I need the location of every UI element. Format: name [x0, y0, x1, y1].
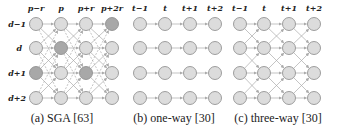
edge: [269, 78, 284, 93]
col-label: t+1: [281, 3, 297, 13]
node: [55, 92, 68, 105]
edge: [294, 29, 309, 43]
edge: [245, 78, 259, 93]
node: [134, 42, 147, 55]
edge: [41, 78, 56, 93]
node: [234, 18, 247, 31]
edge: [66, 78, 81, 93]
node: [159, 67, 172, 80]
node: [106, 92, 119, 105]
node: [234, 42, 247, 55]
col-label: t−1: [132, 3, 148, 13]
edge: [294, 78, 309, 93]
node: [106, 67, 119, 80]
node: [80, 18, 93, 31]
row-label: d+2: [8, 93, 26, 103]
edge: [66, 29, 81, 43]
col-label: t: [262, 3, 266, 13]
node: [30, 42, 43, 55]
highlighted-node: [80, 67, 93, 80]
edge: [91, 29, 107, 44]
node: [159, 42, 172, 55]
node: [258, 42, 271, 55]
col-label: p−r: [28, 3, 45, 13]
edge: [245, 29, 259, 43]
edge: [66, 29, 81, 43]
col-label: t−1: [232, 3, 248, 13]
edge: [245, 78, 259, 93]
highlighted-node: [55, 42, 68, 55]
col-label: p: [58, 3, 64, 13]
edge: [294, 53, 309, 68]
edge: [91, 28, 107, 43]
caption-b: (b) one-way [30]: [133, 111, 214, 125]
node: [308, 92, 321, 105]
node: [308, 67, 321, 80]
edge: [41, 29, 56, 43]
node: [234, 67, 247, 80]
edge: [269, 78, 284, 93]
node: [308, 18, 321, 31]
node: [80, 92, 93, 105]
node: [30, 18, 43, 31]
edge: [269, 53, 284, 68]
node: [283, 18, 296, 31]
node: [134, 18, 147, 31]
node: [184, 67, 197, 80]
edge: [66, 53, 81, 68]
node: [258, 18, 271, 31]
edge: [66, 78, 81, 93]
highlighted-node: [30, 67, 43, 80]
edge: [41, 29, 56, 43]
node: [234, 92, 247, 105]
edge: [269, 29, 284, 43]
node: [209, 92, 222, 105]
node: [258, 92, 271, 105]
node: [134, 92, 147, 105]
node: [184, 18, 197, 31]
edge: [245, 53, 259, 68]
row-label: d−1: [8, 19, 26, 29]
edge: [269, 29, 284, 43]
highlighted-node: [106, 18, 119, 31]
caption-a: (a) SGA [63]: [31, 111, 94, 125]
col-label: t+2: [207, 3, 223, 13]
node: [258, 67, 271, 80]
node: [55, 18, 68, 31]
node: [184, 92, 197, 105]
col-label: p+2r: [101, 3, 124, 13]
col-label: p+r: [78, 3, 95, 13]
edge: [294, 53, 309, 68]
node: [283, 92, 296, 105]
edge: [294, 29, 309, 43]
node: [283, 67, 296, 80]
edge: [41, 78, 56, 93]
edge: [269, 53, 284, 68]
node: [184, 42, 197, 55]
node: [209, 67, 222, 80]
edge: [91, 78, 107, 93]
node: [80, 42, 93, 55]
node: [283, 42, 296, 55]
row-label: d: [16, 43, 22, 53]
node: [55, 67, 68, 80]
caption-c: (c) three-way [30]: [234, 111, 321, 125]
row-label: d+1: [8, 68, 26, 78]
node: [134, 67, 147, 80]
edge: [41, 53, 56, 68]
node: [209, 18, 222, 31]
col-label: t: [163, 3, 167, 13]
node: [106, 42, 119, 55]
edge: [245, 29, 259, 43]
node: [30, 92, 43, 105]
node: [159, 18, 172, 31]
edge: [294, 78, 309, 93]
node: [209, 42, 222, 55]
edge: [245, 53, 259, 68]
figure: p−r p p+r p+2r d−1 d d+1 d+2 t−1 t t+1 t…: [0, 0, 340, 130]
node: [159, 92, 172, 105]
col-label: t+1: [182, 3, 198, 13]
col-label: t+2: [306, 3, 322, 13]
node: [308, 42, 321, 55]
